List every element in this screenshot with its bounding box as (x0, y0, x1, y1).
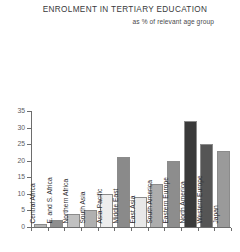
bar-category-label: Western Europe (197, 176, 204, 224)
x-axis-tick (48, 228, 49, 231)
bar-category-label: East Asia (130, 196, 137, 224)
chart-header: ENROLMENT IN TERTIARY EDUCATION as % of … (0, 5, 236, 25)
bar-series: Central AfricaE. and S. AfricaNorthern A… (32, 111, 232, 227)
x-axis-tick (181, 228, 182, 231)
y-axis-tick (27, 111, 31, 112)
y-axis-tick-label: 20 (17, 157, 25, 164)
y-axis-tick-label: 10 (17, 190, 25, 197)
bar-category-label: South Asia (80, 192, 87, 224)
bar-category-label: Asia-Pacific (97, 189, 104, 224)
plot-area: 05101520253035 Central AfricaE. and S. A… (31, 111, 231, 228)
y-axis-tick (27, 128, 31, 129)
bar-category-label: Northern Africa (64, 179, 71, 224)
y-axis-tick-label: 15 (17, 174, 25, 181)
bar-category-label: Japan (214, 206, 221, 224)
x-axis-tick (164, 228, 165, 231)
x-axis-tick (231, 228, 232, 231)
bar-category-label: Eastern Europe (164, 177, 171, 224)
x-axis-tick (64, 228, 65, 231)
x-axis-tick (131, 228, 132, 231)
y-axis-tick-label: 30 (17, 124, 25, 131)
bar-category-label: Central Africa (30, 184, 37, 224)
y-axis-tick-label: 35 (17, 108, 25, 115)
y-axis-tick (27, 177, 31, 178)
x-axis-tick (114, 228, 115, 231)
x-axis-tick (148, 228, 149, 231)
y-axis-tick-label: 0 (21, 224, 25, 231)
y-axis-tick-label: 5 (21, 207, 25, 214)
x-axis-tick (31, 228, 32, 231)
chart-title: ENROLMENT IN TERTIARY EDUCATION (0, 5, 236, 14)
bar-category-label: North America (180, 182, 187, 224)
x-axis-tick (98, 228, 99, 231)
bar-category-label: South America (147, 180, 154, 224)
y-axis-tick (27, 161, 31, 162)
bar-category-label: E. and S. Africa (47, 178, 54, 224)
chart-subtitle: as % of relevant age group (0, 18, 236, 25)
x-axis-tick (198, 228, 199, 231)
chart-container: ENROLMENT IN TERTIARY EDUCATION as % of … (0, 0, 240, 252)
y-axis-tick (27, 144, 31, 145)
bar-slot: Japan (215, 111, 232, 227)
bar-category-label: Middle East (114, 189, 121, 224)
bar[interactable] (34, 224, 47, 227)
y-axis-tick-label: 25 (17, 141, 25, 148)
x-axis-tick (214, 228, 215, 231)
x-axis-tick (81, 228, 82, 231)
